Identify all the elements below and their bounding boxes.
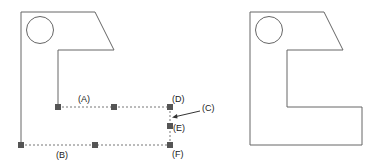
right-outline (250, 12, 362, 145)
grip-marker (92, 142, 98, 148)
grip-marker (111, 104, 117, 110)
left-hole-circle (27, 17, 54, 44)
diagram-canvas: (A) (B) (C) (D) (E) (F) (0, 0, 379, 162)
right-hole-circle (256, 17, 283, 44)
left-figure: (A) (B) (C) (D) (E) (F) (18, 12, 215, 160)
right-figure (250, 12, 362, 145)
grip-marker-f (167, 142, 173, 148)
grip-marker (55, 104, 61, 110)
label-f: (F) (172, 149, 184, 159)
grip-marker (18, 142, 24, 148)
arrowhead-icon (172, 114, 178, 119)
label-e: (E) (173, 123, 185, 133)
label-c: (C) (202, 103, 215, 113)
label-a: (A) (78, 94, 90, 104)
grip-marker-d (167, 104, 173, 110)
label-d: (D) (172, 94, 185, 104)
label-b: (B) (56, 150, 68, 160)
callout-arrow-c (174, 111, 200, 117)
left-outline (21, 12, 114, 145)
